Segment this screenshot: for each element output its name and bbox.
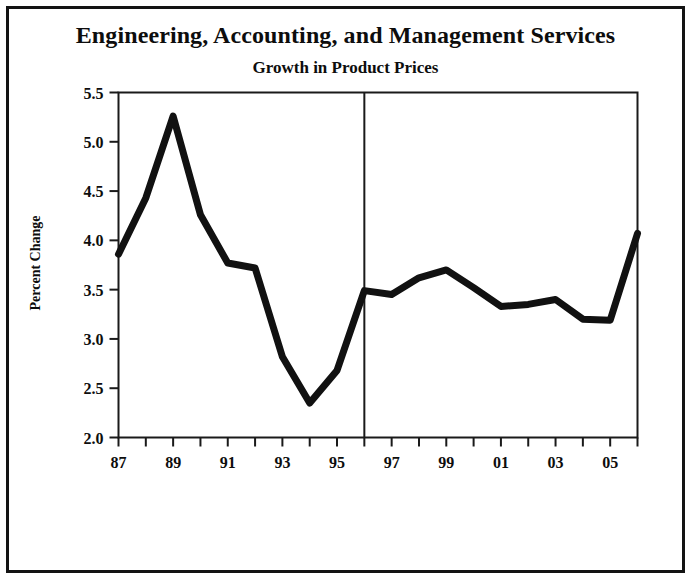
x-tick-label: 89 [165, 454, 181, 471]
x-tick-label: 01 [493, 454, 509, 471]
chart-figure: Engineering, Accounting, and Management … [0, 0, 691, 580]
plot-area: 2.02.53.03.54.04.55.05.5 878991939597990… [0, 0, 691, 580]
y-tick-label: 2.5 [84, 380, 104, 397]
y-tick-label: 5.5 [84, 85, 104, 102]
y-tick-label: 3.5 [84, 282, 104, 299]
x-tick-label: 05 [602, 454, 618, 471]
x-tick-label: 99 [438, 454, 454, 471]
y-tick-label: 4.0 [84, 232, 104, 249]
data-series-line [119, 116, 638, 403]
y-axis-ticks: 2.02.53.03.54.04.55.05.5 [84, 85, 119, 447]
y-tick-label: 5.0 [84, 134, 104, 151]
x-tick-label: 93 [274, 454, 290, 471]
y-tick-label: 3.0 [84, 331, 104, 348]
x-tick-label: 03 [548, 454, 564, 471]
x-tick-label: 91 [220, 454, 236, 471]
y-tick-label: 4.5 [84, 183, 104, 200]
x-axis-ticks: 87899193959799010305 [111, 438, 638, 471]
x-tick-label: 95 [329, 454, 345, 471]
y-tick-label: 2.0 [84, 430, 104, 447]
plot-frame [119, 93, 638, 438]
x-tick-label: 97 [384, 454, 400, 471]
x-tick-label: 87 [111, 454, 127, 471]
